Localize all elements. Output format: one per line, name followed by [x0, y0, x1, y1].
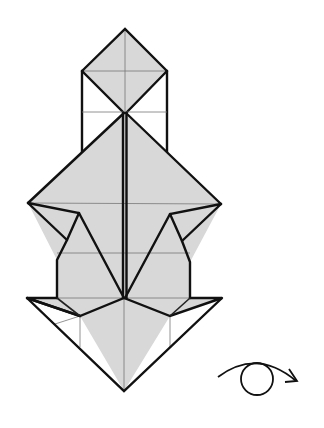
origami-diagram [0, 0, 324, 428]
arrow-icon [218, 363, 297, 382]
eye-icon [241, 363, 273, 395]
turn-over-symbol [0, 0, 324, 428]
